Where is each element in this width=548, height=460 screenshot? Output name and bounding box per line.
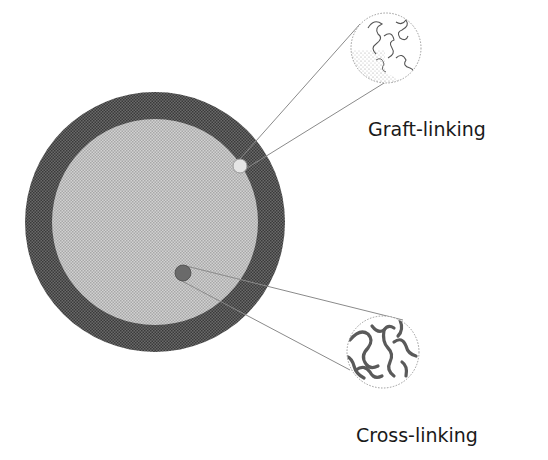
graft-leader-line-upper — [240, 24, 360, 159]
graft-linking-label: Graft-linking — [368, 118, 486, 140]
graft-inset — [350, 13, 421, 90]
graft-marker — [233, 159, 247, 173]
core-shell-particle-diagram: Graft-linking Cross-linking — [0, 0, 548, 460]
cross-marker — [175, 265, 191, 281]
graft-linking-callout: Graft-linking — [233, 13, 486, 173]
particle — [25, 92, 285, 352]
cross-linking-label: Cross-linking — [356, 424, 478, 446]
particle-core — [52, 119, 258, 325]
cross-inset — [346, 316, 419, 388]
